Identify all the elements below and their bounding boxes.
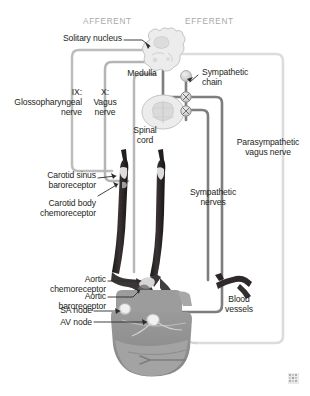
leader-lines: [0, 0, 310, 396]
label-nerve-x-numeral: X:: [88, 88, 122, 97]
label-av-node: AV node: [0, 318, 92, 327]
label-nerve-ix-numeral: IX:: [0, 88, 82, 97]
label-blood-vessels-line1: Blood: [214, 295, 264, 304]
label-nerve-ix-name: Glossopharyngeal: [0, 98, 82, 107]
watermark-icon: [288, 373, 299, 384]
label-blood-vessels-line2: vessels: [214, 305, 264, 314]
label-nerve-x-nerve: nerve: [88, 108, 122, 117]
baroreceptor-reflex-diagram: AFFERENT EFFERENT Solitary nucleus Medul…: [0, 0, 310, 396]
label-sa-node: SA node: [0, 306, 92, 315]
label-sympathetic-chain-line2: chain: [202, 78, 222, 87]
label-carotid-body-line1: Carotid body: [0, 199, 96, 208]
label-parasympathetic-line1: Parasympathetic: [226, 138, 310, 147]
label-carotid-sinus-line1: Carotid sinus: [0, 171, 96, 180]
label-parasympathetic-line2: vagus nerve: [226, 148, 310, 157]
label-solitary-nucleus: Solitary nucleus: [0, 34, 122, 43]
label-nerve-x-name: Vagus: [88, 98, 122, 107]
label-nerve-ix-nerve: nerve: [0, 108, 82, 117]
label-sympathetic-nerves-line2: nerves: [178, 198, 248, 207]
label-spinal-cord-line2: cord: [125, 136, 165, 145]
label-aortic-baroreceptor-line1: Aortic: [0, 292, 106, 301]
label-spinal-cord-line1: Spinal: [125, 126, 165, 135]
label-aortic-chemoreceptor-line1: Aortic: [0, 275, 106, 284]
label-sympathetic-chain-line1: Sympathetic: [202, 68, 248, 77]
header-afferent: AFFERENT: [83, 17, 132, 26]
label-medulla: Medulla: [118, 69, 166, 78]
label-carotid-sinus-line2: baroreceptor: [0, 181, 96, 190]
header-efferent: EFFERENT: [185, 17, 234, 26]
label-carotid-body-line2: chemoreceptor: [0, 209, 96, 218]
label-sympathetic-nerves-line1: Sympathetic: [178, 188, 248, 197]
